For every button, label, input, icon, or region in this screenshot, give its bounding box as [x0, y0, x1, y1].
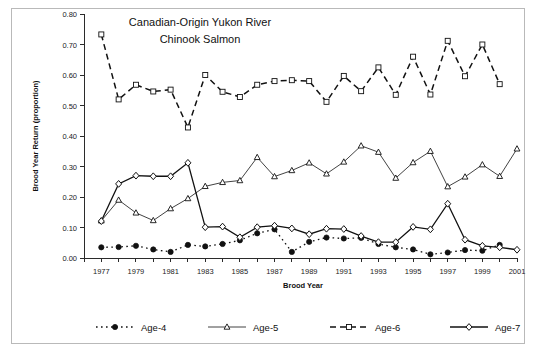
- data-point-age-4: [185, 242, 190, 247]
- data-point-age-4: [445, 250, 450, 255]
- legend-item-age-5[interactable]: Age-5: [208, 322, 278, 333]
- y-tick-label: 0.40: [62, 132, 77, 141]
- x-tick-label: 1991: [335, 267, 352, 276]
- data-point-age-4: [289, 249, 294, 254]
- y-tick-label: 0.50: [62, 102, 77, 111]
- data-series-group: [98, 32, 520, 257]
- data-point-age-5: [324, 171, 330, 176]
- data-point-age-6: [255, 82, 260, 87]
- data-point-age-6: [359, 89, 364, 94]
- legend-label-age-6: Age-6: [375, 322, 400, 333]
- y-tick-label: 0.30: [62, 163, 77, 172]
- x-tick-label: 1995: [405, 267, 422, 276]
- data-point-age-6: [289, 78, 294, 83]
- data-point-age-4: [220, 241, 225, 246]
- data-point-age-7: [289, 225, 295, 232]
- data-point-age-7: [306, 231, 312, 238]
- chart-figure: 0.000.100.200.300.400.500.600.700.80 197…: [0, 0, 537, 352]
- data-point-age-4: [307, 239, 312, 244]
- data-point-age-6: [393, 92, 398, 97]
- data-point-age-5: [185, 195, 191, 200]
- data-point-age-6: [116, 97, 121, 102]
- y-tick-label: 0.00: [62, 254, 77, 263]
- y-tick-label: 0.60: [62, 71, 77, 80]
- data-point-age-5: [410, 159, 416, 164]
- data-point-age-6: [463, 74, 468, 79]
- legend-marker-age-5: [224, 324, 230, 329]
- data-point-age-5: [306, 160, 312, 165]
- x-tick-label: 1979: [128, 267, 145, 276]
- data-point-age-6: [480, 42, 485, 47]
- data-point-age-6: [341, 73, 346, 78]
- data-point-age-6: [168, 87, 173, 92]
- legend-label-age-4: Age-4: [141, 322, 166, 333]
- data-point-age-6: [185, 125, 190, 130]
- x-tick-label: 1999: [474, 267, 491, 276]
- data-point-age-6: [411, 54, 416, 59]
- data-point-age-6: [237, 94, 242, 99]
- legend-item-age-7[interactable]: Age-7: [450, 322, 520, 333]
- data-point-age-5: [168, 205, 174, 210]
- data-point-age-4: [462, 247, 467, 252]
- data-point-age-7: [150, 173, 156, 180]
- legend-label-age-7: Age-7: [495, 322, 520, 333]
- data-point-age-6: [307, 79, 312, 84]
- data-point-age-6: [203, 73, 208, 78]
- data-point-age-7: [514, 246, 520, 253]
- x-tick-label: 1987: [266, 267, 283, 276]
- data-point-age-4: [99, 245, 104, 250]
- data-point-age-5: [150, 217, 156, 222]
- x-tick-label: 1981: [162, 267, 179, 276]
- chart-canvas: 0.000.100.200.300.400.500.600.700.80 197…: [0, 0, 537, 352]
- data-point-age-4: [203, 244, 208, 249]
- legend-item-age-4[interactable]: Age-4: [96, 322, 166, 333]
- x-tick-label: 1993: [370, 267, 387, 276]
- data-point-age-4: [168, 249, 173, 254]
- legend-label-age-5: Age-5: [253, 322, 278, 333]
- data-point-age-5: [116, 197, 122, 202]
- legend-marker-age-4: [112, 324, 117, 329]
- legend-marker-age-6: [347, 325, 352, 330]
- x-axis-ticks: [84, 258, 517, 262]
- x-tick-label: 1983: [197, 267, 214, 276]
- data-point-age-4: [428, 252, 433, 257]
- y-tick-label: 0.20: [62, 193, 77, 202]
- series-age-6: [99, 32, 502, 130]
- data-point-age-7: [202, 224, 208, 231]
- data-point-age-4: [341, 236, 346, 241]
- y-axis-tick-labels: 0.000.100.200.300.400.500.600.700.80: [62, 10, 77, 263]
- data-point-age-6: [324, 99, 329, 104]
- data-point-age-6: [497, 82, 502, 87]
- data-point-age-4: [151, 247, 156, 252]
- data-point-age-5: [428, 148, 434, 153]
- y-tick-label: 0.80: [62, 10, 77, 19]
- legend-marker-age-7: [466, 324, 472, 331]
- series-line-age-5: [101, 146, 517, 221]
- data-point-age-7: [479, 242, 485, 249]
- data-point-age-7: [133, 172, 139, 179]
- data-point-age-6: [133, 82, 138, 87]
- data-point-age-5: [358, 143, 364, 148]
- x-tick-label: 1997: [439, 267, 456, 276]
- data-point-age-5: [254, 154, 260, 159]
- data-point-age-7: [116, 180, 122, 187]
- data-point-age-6: [151, 89, 156, 94]
- data-point-age-4: [255, 231, 260, 236]
- data-point-age-6: [99, 32, 104, 37]
- y-tick-label: 0.70: [62, 41, 77, 50]
- x-axis-title: Brood Year: [283, 281, 323, 290]
- legend-item-age-6[interactable]: Age-6: [330, 322, 400, 333]
- data-point-age-7: [254, 224, 260, 231]
- data-point-age-5: [445, 184, 451, 189]
- data-point-age-5: [133, 210, 139, 215]
- data-point-age-4: [116, 244, 121, 249]
- data-point-age-4: [133, 243, 138, 248]
- x-tick-label: 1989: [301, 267, 318, 276]
- data-point-age-5: [479, 162, 485, 167]
- series-age-5: [98, 143, 519, 223]
- y-axis-title: Brood Year Return (proportion): [31, 80, 40, 192]
- x-axis-tick-labels: 1977197919811983198519871989199119931995…: [93, 267, 525, 276]
- data-point-age-6: [445, 38, 450, 43]
- chart-title-line-1: Canadian-Origin Yukon River: [129, 16, 272, 28]
- chart-title-line-2: Chinook Salmon: [160, 33, 241, 45]
